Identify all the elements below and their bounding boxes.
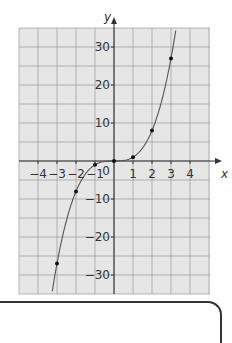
svg-text:4: 4	[186, 167, 194, 181]
svg-text:20: 20	[95, 78, 110, 92]
svg-text:−20: −20	[85, 230, 110, 244]
svg-text:0: 0	[102, 164, 110, 178]
svg-text:2: 2	[148, 167, 156, 181]
svg-text:3: 3	[167, 167, 175, 181]
svg-text:−3: −3	[48, 167, 66, 181]
svg-text:10: 10	[95, 116, 110, 130]
svg-text:1: 1	[129, 167, 137, 181]
svg-text:−30: −30	[85, 268, 110, 282]
svg-text:−2: −2	[67, 167, 85, 181]
svg-text:−10: −10	[85, 192, 110, 206]
svg-text:y: y	[103, 10, 112, 24]
answer-box-border	[0, 301, 222, 343]
svg-text:−4: −4	[29, 167, 47, 181]
svg-text:30: 30	[95, 40, 110, 54]
svg-text:x: x	[220, 167, 229, 181]
